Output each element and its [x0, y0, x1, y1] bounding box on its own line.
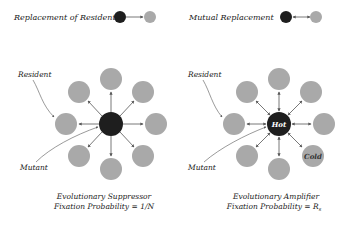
- resident-node: [145, 113, 167, 135]
- amplifier-caption-subscript: s: [319, 206, 322, 212]
- legend-mutual: Mutual Replacement: [188, 11, 322, 23]
- legend-mutual-label: Mutual Replacement: [188, 13, 274, 22]
- mutant-label: Mutant: [19, 163, 49, 172]
- mutant-label: Mutant: [187, 163, 217, 172]
- resident-node: [100, 158, 122, 180]
- resident-label: Resident: [17, 70, 52, 79]
- amplifier-caption-line1: Evolutionary Amplifier: [232, 192, 319, 201]
- cold-label: Cold: [304, 152, 322, 161]
- resident-node: [300, 81, 322, 103]
- resident-pointer: [33, 80, 54, 117]
- resident-node-icon: [144, 11, 156, 23]
- amplifier-caption-text: Fixation Probability = R: [226, 202, 319, 211]
- mutant-node-icon: [114, 11, 126, 23]
- suppressor-diagram: Resident Mutant Evolutionary Suppressor …: [17, 68, 167, 211]
- amplifier-caption-line2: Fixation Probability = Rs: [226, 202, 322, 212]
- resident-node: [236, 81, 258, 103]
- resident-node: [313, 113, 335, 135]
- resident-node: [268, 68, 290, 90]
- mutant-center-node: [99, 112, 123, 136]
- resident-node: [132, 145, 154, 167]
- mutant-node-icon: [280, 11, 292, 23]
- resident-node: [268, 158, 290, 180]
- amplifier-diagram: Hot Cold Resident Mutant Evolutionary Am…: [187, 68, 335, 212]
- legend-replacement-label: Replacement of Resident: [13, 13, 116, 22]
- resident-node: [68, 145, 90, 167]
- resident-pointer: [203, 80, 222, 117]
- suppressor-caption-line1: Evolutionary Suppressor: [56, 192, 152, 201]
- legend-replacement: Replacement of Resident: [13, 11, 156, 23]
- resident-node: [68, 81, 90, 103]
- resident-node: [236, 145, 258, 167]
- resident-node: [223, 113, 245, 135]
- hot-label: Hot: [271, 120, 287, 129]
- resident-label: Resident: [187, 70, 222, 79]
- suppressor-caption-line2: Fixation Probability = 1/N: [53, 202, 154, 211]
- resident-node-icon: [310, 11, 322, 23]
- resident-node: [100, 68, 122, 90]
- resident-node: [132, 81, 154, 103]
- evolutionary-graphs-figure: Replacement of Resident Mutual Replaceme…: [0, 0, 347, 225]
- resident-node: [55, 113, 77, 135]
